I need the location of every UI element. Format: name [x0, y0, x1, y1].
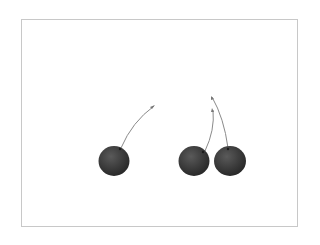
cherry-middle: [179, 108, 215, 176]
stem-icon: [121, 106, 154, 148]
cherry-icon: [179, 146, 210, 176]
cherries-illustration: [0, 0, 320, 245]
cherry-right: [211, 96, 246, 176]
stem-icon: [205, 110, 213, 151]
cherry-icon: [214, 146, 246, 176]
cherry-left: [99, 105, 156, 176]
stem-icon: [212, 97, 228, 148]
cherry-icon: [99, 146, 130, 176]
